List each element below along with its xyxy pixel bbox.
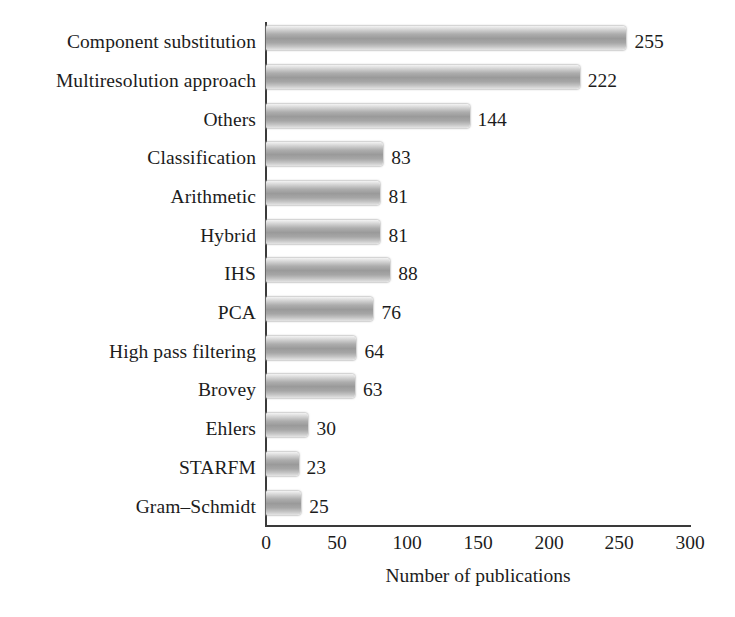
x-tick-label: 100 — [392, 533, 421, 553]
category-label: PCA — [0, 303, 256, 323]
bar-value-label: 25 — [309, 497, 329, 517]
x-axis-title: Number of publications — [266, 566, 690, 586]
bar — [266, 413, 308, 437]
bar — [266, 26, 626, 50]
bar — [266, 452, 299, 476]
bar-value-label: 83 — [391, 148, 411, 168]
x-tick-label: 0 — [261, 533, 271, 553]
bar-value-label: 64 — [364, 342, 384, 362]
bar-value-label: 88 — [398, 264, 418, 284]
category-label: Others — [0, 110, 256, 130]
x-tick-label: 150 — [463, 533, 492, 553]
category-label: High pass filtering — [0, 342, 256, 362]
category-label: Brovey — [0, 380, 256, 400]
bar — [266, 104, 470, 128]
x-tick-label: 250 — [604, 533, 633, 553]
bar — [266, 142, 383, 166]
category-label: Ehlers — [0, 419, 256, 439]
x-tick-label: 200 — [534, 533, 563, 553]
bar — [266, 258, 390, 282]
bar — [266, 181, 380, 205]
bar-value-label: 144 — [478, 110, 507, 130]
bar-value-label: 81 — [388, 226, 408, 246]
bar — [266, 374, 355, 398]
bar — [266, 220, 380, 244]
bar — [266, 336, 356, 360]
bar — [266, 297, 373, 321]
bar-value-label: 76 — [381, 303, 401, 323]
category-label: IHS — [0, 264, 256, 284]
bar — [266, 491, 301, 515]
bar — [266, 65, 580, 89]
x-tick-label: 300 — [675, 533, 704, 553]
plot-area — [266, 22, 690, 525]
category-label: Gram–Schmidt — [0, 497, 256, 517]
bar-chart: Component substitution Multiresolution a… — [0, 0, 735, 617]
category-label: Classification — [0, 148, 256, 168]
bar-value-label: 81 — [388, 187, 408, 207]
category-label: Multiresolution approach — [0, 71, 256, 91]
bar-value-label: 30 — [316, 419, 336, 439]
category-label: Component substitution — [0, 32, 256, 52]
category-label: STARFM — [0, 458, 256, 478]
x-tick-label: 50 — [327, 533, 347, 553]
bar-value-label: 255 — [634, 32, 663, 52]
category-label: Arithmetic — [0, 187, 256, 207]
bar-value-label: 23 — [307, 458, 327, 478]
bar-value-label: 222 — [588, 71, 617, 91]
bar-value-label: 63 — [363, 380, 383, 400]
x-axis-line — [265, 525, 691, 527]
category-label: Hybrid — [0, 226, 256, 246]
category-axis-labels: Component substitution Multiresolution a… — [0, 0, 256, 617]
